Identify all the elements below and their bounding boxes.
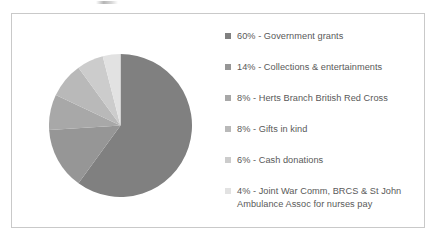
pie-chart-svg: [49, 54, 192, 197]
legend-item-label: 14% - Collections & entertainments: [237, 61, 423, 74]
legend-item-label: 8% - Herts Branch British Red Cross: [237, 92, 423, 105]
legend-item[interactable]: 4% - Joint War Comm, BRCS & St JohnAmbul…: [225, 185, 423, 210]
legend-item-label-line2: Ambulance Assoc for nurses pay: [237, 198, 423, 211]
legend-item[interactable]: 6% - Cash donations: [225, 154, 423, 167]
legend-item-label: 60% - Government grants: [237, 30, 423, 43]
legend-swatch-collections-entertainments: [225, 64, 231, 70]
legend-swatch-cash-donations: [225, 157, 231, 163]
legend-item[interactable]: 8% - Herts Branch British Red Cross: [225, 92, 423, 105]
legend-swatch-joint-war-comm: [225, 188, 231, 194]
chart-legend: 60% - Government grants14% - Collections…: [225, 30, 423, 210]
chart-frame: 60% - Government grants14% - Collections…: [11, 13, 425, 228]
legend-item[interactable]: 14% - Collections & entertainments: [225, 61, 423, 74]
chart-screenshot: 60% - Government grants14% - Collections…: [0, 0, 437, 241]
legend-swatch-gifts-in-kind: [225, 126, 231, 132]
pie-chart: [49, 54, 192, 197]
legend-swatch-herts-branch-british-red-cross: [225, 95, 231, 101]
legend-item-label: 4% - Joint War Comm, BRCS & St JohnAmbul…: [237, 185, 423, 210]
legend-item[interactable]: 8% - Gifts in kind: [225, 123, 423, 136]
legend-item[interactable]: 60% - Government grants: [225, 30, 423, 43]
legend-item-label: 8% - Gifts in kind: [237, 123, 423, 136]
legend-swatch-government-grants: [225, 33, 231, 39]
scan-artifact: [96, 1, 118, 4]
pie-slice-group: [49, 54, 192, 197]
legend-item-label: 6% - Cash donations: [237, 154, 423, 167]
